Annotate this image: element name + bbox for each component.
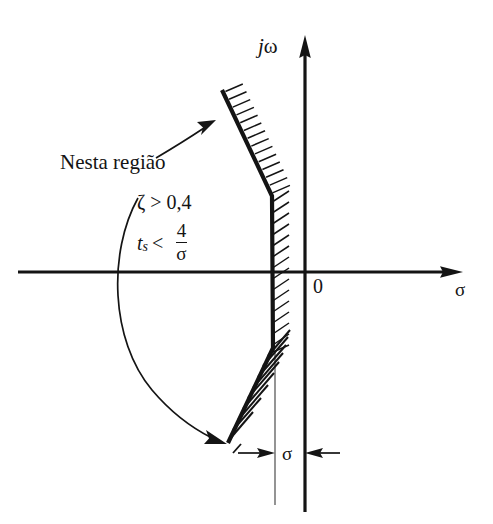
fraction-numerator: 4 xyxy=(176,221,186,241)
imaginary-axis-arrowhead xyxy=(299,35,311,58)
relation-operator: < xyxy=(152,233,163,253)
sigma-dimension-label: σ xyxy=(282,444,292,463)
lower-vertex-tick xyxy=(233,444,241,453)
real-axis-label: σ xyxy=(455,280,465,299)
origin-label: 0 xyxy=(313,276,323,296)
region-boundary xyxy=(222,90,273,443)
damping-condition-label: ζ > 0,4 xyxy=(137,192,192,212)
s-plane-region-figure xyxy=(0,0,493,524)
settling-time-condition-label: ts< 4 σ xyxy=(137,222,187,265)
settling-time-fraction: 4 σ xyxy=(176,221,186,264)
hatching-upper-diagonal xyxy=(225,84,290,193)
real-axis-arrowhead xyxy=(440,266,463,278)
hatching-lower-diagonal xyxy=(229,330,290,440)
fraction-denominator: σ xyxy=(176,244,186,264)
imaginary-axis-label: jω xyxy=(258,36,278,57)
axis-group xyxy=(18,35,463,512)
region-annotation-text: Nesta região xyxy=(60,152,166,173)
settling-time-subscript: s xyxy=(143,240,148,254)
